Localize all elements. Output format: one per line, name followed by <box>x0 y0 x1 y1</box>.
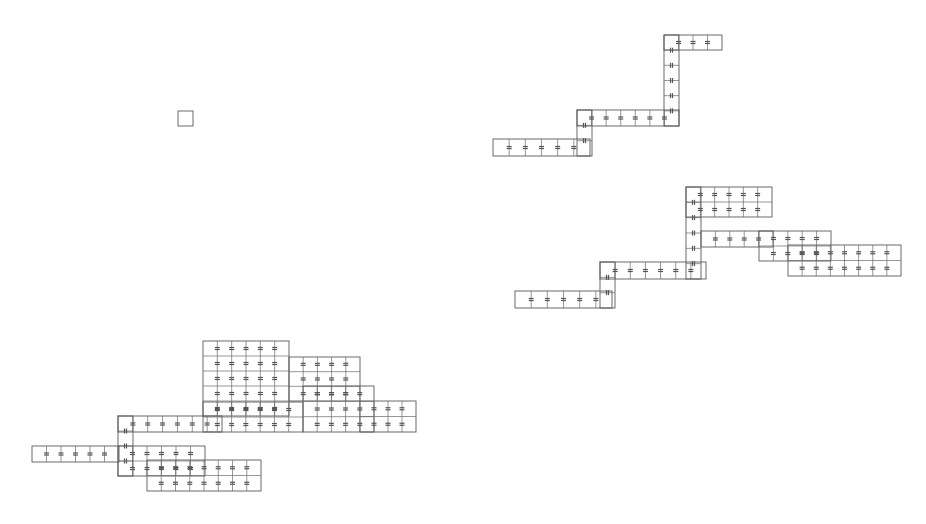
block-outline <box>303 386 374 432</box>
structure-single-cell <box>178 111 193 126</box>
structure-top-right-chain <box>493 35 722 156</box>
lattice-diagram <box>0 0 926 524</box>
block-outline <box>118 416 222 432</box>
block-outline <box>600 262 706 279</box>
structures-layer <box>32 35 901 491</box>
block-outline <box>289 357 360 401</box>
block-outline <box>701 231 773 247</box>
block-outline <box>178 111 193 126</box>
structure-bottom-left-cluster <box>32 341 416 491</box>
structure-middle-right-cluster <box>515 187 901 308</box>
